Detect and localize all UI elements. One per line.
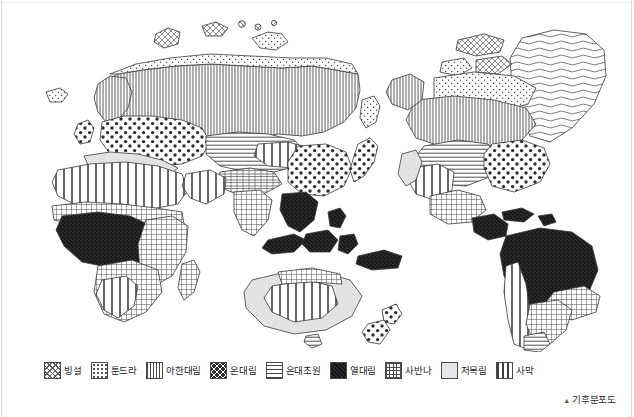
region-tasmania [304,334,322,348]
region-arabian-desert [182,170,226,204]
region-northern-australia-savanna [278,268,342,284]
region-tibet-highland [218,168,282,194]
legend-item-savanna: 사반나 [385,362,431,379]
region-philippines [328,208,346,228]
region-japan [350,138,378,182]
legend-label-savanna: 사반나 [405,366,431,376]
figure-page: 빙설 툰드라 아한대림 온대림 온대초원 열대림 사반나 저목림 [0,0,634,417]
region-sahara-desert [52,162,188,210]
legend-label-ice: 빙설 [64,366,82,376]
region-canadian-arctic-islands [456,34,504,56]
legend-swatch-tropical [330,362,347,379]
legend-swatch-temperate-forest [210,362,227,379]
legend-item-temperate-forest: 온대림 [210,362,256,379]
legend-label-temperate-forest: 온대림 [230,366,256,376]
region-arctic-islands [252,32,288,50]
region-india [234,190,272,236]
legend-label-subarctic: 아한대림 [166,366,201,376]
caption-marker-triangle: ▲ [563,397,570,404]
region-east-asia-temperate [288,144,352,196]
region-franz-josef [202,22,228,36]
region-caribbean-islands [502,208,534,222]
legend-swatch-tundra [91,362,108,379]
region-british-isles [74,120,94,144]
page-frame-left [1,0,2,417]
region-madagascar [178,260,200,300]
region-southeast-asia [280,192,318,232]
legend-label-tundra: 툰드라 [111,366,137,376]
region-indonesia-sulawesi [338,234,358,254]
arctic-islet-a [239,21,246,28]
region-kamchatka [360,96,380,128]
region-indonesia-borneo [302,230,338,252]
map-legend: 빙설 툰드라 아한대림 온대림 온대초원 열대림 사반나 저목림 [44,362,539,379]
arctic-islet-c [271,20,276,25]
map-svg [6,4,628,352]
legend-item-ice: 빙설 [44,362,82,379]
legend-label-tropical: 열대림 [350,366,376,376]
figure-caption: ▲기후분포도 [563,392,616,406]
arctic-islet-b [255,24,261,30]
legend-label-desert: 사막 [516,366,534,376]
legend-item-tropical: 열대림 [330,362,376,379]
legend-item-subarctic: 아한대림 [146,362,201,379]
page-frame-right [631,0,632,417]
region-indonesia-sumatra [262,234,306,254]
region-central-america [472,214,508,240]
legend-swatch-temperate-grassland [266,362,283,379]
world-climate-map [6,4,628,352]
legend-swatch-desert [496,362,513,379]
legend-label-shrubland: 저목림 [461,366,487,376]
legend-item-temperate-grassland: 온대초원 [266,362,321,379]
legend-swatch-savanna [385,362,402,379]
legend-swatch-ice [44,362,61,379]
region-arctic-island-b [476,56,512,74]
legend-item-shrubland: 저목림 [441,362,487,379]
region-new-guinea [356,250,402,270]
legend-swatch-subarctic [146,362,163,379]
legend-item-tundra: 툰드라 [91,362,137,379]
legend-swatch-shrubland [441,362,458,379]
legend-item-desert: 사막 [496,362,534,379]
region-caribbean-islet [538,214,556,226]
region-new-zealand-s [362,320,390,344]
caption-text: 기후분포도 [572,394,616,405]
region-svalbard [154,28,180,48]
region-eastern-usa-forest [484,140,550,192]
page-frame-top [0,2,634,3]
region-iceland [46,88,68,102]
legend-label-temperate-grassland: 온대초원 [286,366,321,376]
